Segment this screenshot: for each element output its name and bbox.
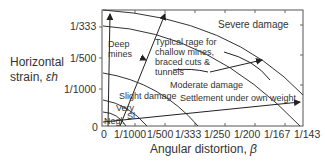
label-slight-damage: Slight damage: [119, 91, 177, 101]
y-axis-label: Horizontal strain, εh: [10, 55, 64, 85]
x-tick-1-200: 1/200: [234, 128, 260, 140]
x-tick-1-1000: 1/1000: [114, 128, 146, 140]
label-deep: Deep: [108, 39, 132, 49]
x-tick-1-250: 1/250: [204, 128, 230, 140]
y-axis-label-line2: strain,: [10, 70, 46, 84]
label-typ2: challow mines,: [155, 47, 217, 57]
label-settlement: Settlement under own weight: [180, 93, 296, 103]
label-typ1: Typical rage for: [155, 37, 217, 47]
label-negl: Negl.: [104, 116, 125, 126]
label-typ3: braced cuts &: [155, 57, 217, 67]
label-typical-range: Typical rage for challow mines, braced c…: [155, 37, 217, 77]
x-axis-label: Angular distortion, β: [150, 142, 257, 157]
label-sl: Sl.: [127, 111, 138, 121]
label-moderate-damage: Moderate damage: [170, 80, 243, 90]
deep-mines-arrow: [108, 14, 110, 126]
label-deep-mines: Deep mines: [108, 39, 132, 59]
typical-leader: [142, 58, 146, 60]
label-severe-damage: Severe damage: [218, 20, 289, 30]
y-tick-1-333: 1/333: [70, 20, 96, 32]
x-axis-symbol: β: [250, 142, 257, 156]
y-tick-1-1000: 1/1000: [64, 83, 96, 95]
moderate-leader: [224, 52, 270, 80]
x-tick-0: 0: [101, 128, 107, 140]
y-tick-0: 0: [92, 121, 98, 133]
moderate-arrow: [210, 60, 262, 72]
y-axis-label-line1: Horizontal: [10, 55, 64, 70]
x-tick-1-143: 1/143: [294, 128, 320, 140]
y-axis-symbol: εh: [46, 70, 58, 84]
x-tick-1-167: 1/167: [264, 128, 290, 140]
label-mines: mines: [108, 49, 132, 59]
x-tick-1-333: 1/333: [175, 128, 201, 140]
y-tick-1-500: 1/500: [70, 52, 96, 64]
x-axis-label-text: Angular distortion,: [150, 142, 250, 156]
x-tick-1-500: 1/500: [147, 128, 173, 140]
label-typ4: tunnels: [155, 67, 217, 77]
